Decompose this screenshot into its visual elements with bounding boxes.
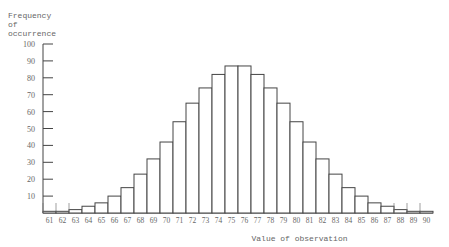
y-tick-label: 80 — [27, 74, 35, 83]
x-tick-label: 67 — [124, 216, 132, 225]
x-tick-label: 68 — [137, 216, 145, 225]
histogram-bar — [212, 74, 225, 213]
histogram-bar — [316, 159, 329, 213]
histogram-bar — [173, 122, 186, 213]
histogram-bar — [225, 66, 238, 213]
x-tick-label: 83 — [332, 216, 340, 225]
histogram-bar — [147, 159, 160, 213]
x-tick-label: 77 — [254, 216, 262, 225]
histogram-bar — [134, 174, 147, 213]
x-tick-label: 75 — [228, 216, 236, 225]
x-tick-label: 72 — [189, 216, 197, 225]
x-tick-label: 63 — [72, 216, 80, 225]
x-tick-label: 79 — [280, 216, 288, 225]
y-tick-label: 40 — [27, 141, 35, 150]
histogram-bar — [290, 122, 303, 213]
histogram-bar — [342, 188, 355, 213]
x-tick-label: 82 — [319, 216, 327, 225]
histogram-bar — [368, 203, 381, 213]
x-tick-label: 62 — [59, 216, 67, 225]
y-tick-label: 30 — [27, 158, 35, 167]
x-tick-label: 89 — [410, 216, 418, 225]
histogram-bar — [407, 211, 420, 213]
x-tick-label: 90 — [423, 216, 431, 225]
x-tick-label: 73 — [202, 216, 210, 225]
y-tick-label: 100 — [23, 40, 35, 49]
y-tick-label: 70 — [27, 91, 35, 100]
histogram-bar — [69, 210, 82, 213]
x-tick-label: 69 — [150, 216, 158, 225]
x-tick-label: 88 — [397, 216, 405, 225]
histogram-bar — [277, 103, 290, 213]
histogram-bar — [251, 74, 264, 213]
histogram-bar — [329, 174, 342, 213]
histogram-bar — [43, 211, 56, 213]
x-tick-label: 80 — [293, 216, 301, 225]
histogram-bar — [420, 211, 433, 213]
x-tick-label: 70 — [163, 216, 171, 225]
x-tick-label: 86 — [371, 216, 379, 225]
x-tick-label: 85 — [358, 216, 366, 225]
histogram-bar — [160, 142, 173, 213]
histogram-bar — [82, 206, 95, 213]
histogram-bar — [394, 210, 407, 213]
y-tick-label: 90 — [27, 57, 35, 66]
x-tick-label: 61 — [46, 216, 54, 225]
histogram: 1020304050607080901006162636465666768697… — [0, 0, 449, 247]
x-tick-label: 65 — [98, 216, 106, 225]
histogram-bar — [238, 66, 251, 213]
x-tick-label: 76 — [241, 216, 249, 225]
x-tick-label: 64 — [85, 216, 93, 225]
histogram-bar — [355, 196, 368, 213]
histogram-bar — [264, 88, 277, 213]
x-tick-label: 74 — [215, 216, 223, 225]
x-tick-label: 71 — [176, 216, 184, 225]
y-tick-label: 50 — [27, 125, 35, 134]
x-tick-label: 66 — [111, 216, 119, 225]
x-tick-label: 81 — [306, 216, 314, 225]
histogram-bar — [303, 142, 316, 213]
histogram-bar — [108, 196, 121, 213]
x-tick-label: 87 — [384, 216, 392, 225]
histogram-bar — [95, 203, 108, 213]
x-tick-label: 84 — [345, 216, 353, 225]
y-tick-label: 10 — [27, 192, 35, 201]
histogram-bar — [121, 188, 134, 213]
x-tick-label: 78 — [267, 216, 275, 225]
histogram-bar — [199, 88, 212, 213]
histogram-bar — [381, 206, 394, 213]
y-tick-label: 60 — [27, 108, 35, 117]
histogram-bar — [56, 211, 69, 213]
y-tick-label: 20 — [27, 175, 35, 184]
histogram-bar — [186, 103, 199, 213]
